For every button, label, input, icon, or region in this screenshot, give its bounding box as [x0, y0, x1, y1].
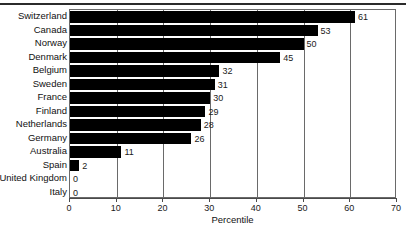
bar-value-label: 2 — [79, 161, 87, 170]
bar-value-label: 0 — [70, 175, 78, 184]
bar-row[interactable]: 11 — [70, 145, 395, 160]
bar-value-label: 31 — [215, 80, 228, 89]
category-label: Germany — [28, 131, 67, 146]
bar-value-label: 29 — [205, 107, 218, 116]
bar[interactable] — [70, 65, 219, 77]
category-label: Netherlands — [16, 117, 67, 132]
x-tick-label-40: 40 — [251, 203, 261, 213]
x-tick-label-50: 50 — [298, 203, 308, 213]
bar-row[interactable]: 30 — [70, 91, 395, 106]
bar-row[interactable]: 32 — [70, 64, 395, 79]
bar-row[interactable]: 2 — [70, 159, 395, 174]
bar[interactable] — [70, 119, 201, 131]
bar[interactable] — [70, 11, 355, 23]
bar[interactable] — [70, 79, 215, 91]
bar-row[interactable]: 50 — [70, 37, 395, 52]
bar[interactable] — [70, 160, 79, 172]
bar-chart: SwitzerlandCanadaNorwayDenmarkBelgiumSwe… — [0, 0, 406, 231]
x-axis-title: Percentile — [69, 214, 396, 225]
x-tick-30 — [209, 198, 210, 202]
bar-row[interactable]: 29 — [70, 105, 395, 120]
category-label: Canada — [34, 23, 67, 38]
bar-row[interactable]: 45 — [70, 51, 395, 66]
bar[interactable] — [70, 146, 121, 158]
bar[interactable] — [70, 38, 304, 50]
category-label: Denmark — [28, 50, 67, 65]
x-tick-label-70: 70 — [391, 203, 401, 213]
category-axis-labels: SwitzerlandCanadaNorwayDenmarkBelgiumSwe… — [0, 9, 67, 198]
x-tick-label-60: 60 — [344, 203, 354, 213]
bar-value-label: 50 — [304, 40, 317, 49]
bar-value-label: 26 — [191, 134, 204, 143]
x-tick-70 — [396, 198, 397, 202]
x-tick-50 — [303, 198, 304, 202]
bar-row[interactable]: 26 — [70, 132, 395, 147]
x-tick-label-20: 20 — [157, 203, 167, 213]
category-label: Norway — [35, 36, 67, 51]
category-label: Belgium — [33, 63, 67, 78]
x-axis-line — [69, 198, 396, 199]
category-label: Sweden — [33, 77, 67, 92]
category-label: Switzerland — [18, 9, 67, 24]
x-tick-label-0: 0 — [66, 203, 71, 213]
plot-area: 6153504532313029282611200 — [69, 9, 396, 198]
bar[interactable] — [70, 92, 210, 104]
bar-value-label: 30 — [210, 94, 223, 103]
bar-value-label: 11 — [121, 148, 133, 157]
x-tick-20 — [162, 198, 163, 202]
bar[interactable] — [70, 52, 280, 64]
bar[interactable] — [70, 106, 205, 118]
bar-value-label: 0 — [70, 188, 78, 197]
bar-row[interactable]: 28 — [70, 118, 395, 133]
bar-row[interactable]: 0 — [70, 172, 395, 187]
x-tick-10 — [116, 198, 117, 202]
category-label: France — [37, 90, 67, 105]
bar-value-label: 32 — [219, 67, 232, 76]
x-tick-0 — [69, 198, 70, 202]
bar-value-label: 28 — [201, 121, 214, 130]
bar[interactable] — [70, 25, 318, 37]
category-label: Spain — [43, 158, 67, 173]
bar[interactable] — [70, 133, 191, 145]
category-label: Australia — [30, 144, 67, 159]
category-label: Finland — [36, 104, 67, 119]
bar-rows: 6153504532313029282611200 — [70, 10, 395, 197]
bar-row[interactable]: 61 — [70, 10, 395, 25]
bar-value-label: 53 — [318, 26, 331, 35]
category-label: Italy — [50, 185, 67, 200]
bar-value-label: 61 — [355, 13, 368, 22]
x-tick-label-10: 10 — [111, 203, 121, 213]
category-label: United Kingdom — [0, 171, 67, 186]
bar-row[interactable]: 31 — [70, 78, 395, 93]
x-tick-40 — [256, 198, 257, 202]
x-tick-label-30: 30 — [204, 203, 214, 213]
x-tick-60 — [349, 198, 350, 202]
bar-value-label: 45 — [280, 53, 293, 62]
bar-row[interactable]: 53 — [70, 24, 395, 39]
